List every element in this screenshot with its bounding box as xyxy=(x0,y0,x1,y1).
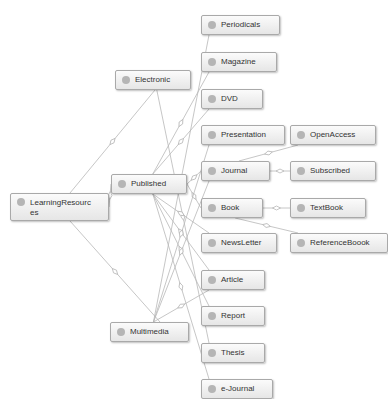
node-dot-icon xyxy=(208,95,216,103)
edge-marker-icon xyxy=(262,223,271,229)
node-dot-icon xyxy=(17,198,25,206)
node-subscribed[interactable]: Subscribed xyxy=(290,161,376,181)
node-dot-icon xyxy=(297,204,305,212)
edge-marker-icon xyxy=(177,302,186,309)
node-dot-icon xyxy=(297,131,305,139)
node-textbook[interactable]: TextBook xyxy=(290,198,366,218)
node-label: Magazine xyxy=(221,57,256,67)
node-ejournal[interactable]: e-Journal xyxy=(201,379,273,399)
node-label: DVD xyxy=(221,94,238,104)
node-periodicals[interactable]: Periodicals xyxy=(201,15,280,35)
node-book[interactable]: Book xyxy=(201,198,263,218)
node-dot-icon xyxy=(208,276,216,284)
edge-marker-icon xyxy=(264,150,273,156)
node-referencebook[interactable]: ReferenceBoook xyxy=(290,233,388,253)
node-dot-icon xyxy=(118,180,126,188)
node-dot-icon xyxy=(297,239,305,247)
node-electronic[interactable]: Electronic xyxy=(115,70,191,90)
node-report[interactable]: Report xyxy=(201,306,265,326)
node-label: ReferenceBoook xyxy=(310,238,370,248)
node-openaccess[interactable]: OpenAccess xyxy=(290,125,376,145)
edge-marker-icon xyxy=(190,173,199,181)
edge-marker-icon xyxy=(178,282,184,291)
node-label: Book xyxy=(221,203,239,213)
node-dot-icon xyxy=(208,58,216,66)
node-label: Report xyxy=(221,311,245,321)
node-magazine[interactable]: Magazine xyxy=(201,52,277,72)
node-dot-icon xyxy=(208,312,216,320)
node-newsletter[interactable]: NewsLetter xyxy=(201,233,277,253)
node-label: e-Journal xyxy=(221,384,254,394)
node-published[interactable]: Published xyxy=(111,174,187,194)
node-label: Multimedia xyxy=(130,327,169,337)
node-dot-icon xyxy=(208,204,216,212)
edge-marker-icon xyxy=(276,169,284,173)
node-dot-icon xyxy=(297,167,305,175)
node-label: Presentation xyxy=(221,130,266,140)
node-thesis[interactable]: Thesis xyxy=(201,343,265,363)
node-label: Published xyxy=(131,179,166,189)
node-dot-icon xyxy=(117,328,125,336)
node-label: Journal xyxy=(221,166,247,176)
node-label: NewsLetter xyxy=(221,238,261,248)
node-dvd[interactable]: DVD xyxy=(201,89,263,109)
node-label: Article xyxy=(221,275,243,285)
edge-marker-icon xyxy=(111,267,119,276)
node-label: TextBook xyxy=(310,203,343,213)
node-multimedia[interactable]: Multimedia xyxy=(110,322,189,342)
node-journal[interactable]: Journal xyxy=(201,161,270,181)
edge-marker-icon xyxy=(273,206,281,210)
node-dot-icon xyxy=(208,239,216,247)
node-label: Electronic xyxy=(135,75,170,85)
node-dot-icon xyxy=(208,349,216,357)
node-dot-icon xyxy=(208,385,216,393)
node-learning[interactable]: LearningResources xyxy=(10,193,109,221)
node-dot-icon xyxy=(208,21,216,29)
edge-marker-icon xyxy=(177,119,184,128)
node-dot-icon xyxy=(122,76,130,84)
node-presentation[interactable]: Presentation xyxy=(201,125,285,145)
edge-marker-icon xyxy=(108,137,116,146)
node-label: Subscribed xyxy=(310,166,350,176)
node-label: OpenAccess xyxy=(310,130,355,140)
node-article[interactable]: Article xyxy=(201,270,265,290)
edge-marker-icon xyxy=(177,137,185,146)
node-dot-icon xyxy=(208,167,216,175)
node-label: Thesis xyxy=(221,348,245,358)
node-label: LearningResources xyxy=(30,198,94,218)
node-label: Periodicals xyxy=(221,20,260,30)
node-dot-icon xyxy=(208,131,216,139)
